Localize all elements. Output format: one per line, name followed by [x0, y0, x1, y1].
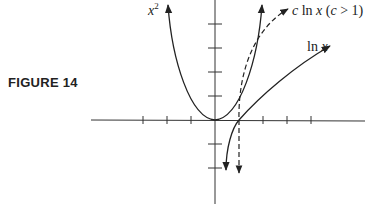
x-axis — [91, 120, 365, 121]
function-graph: x2 c ln x (c > 1) ln x — [0, 0, 370, 213]
curve-c-ln-x — [239, 9, 288, 173]
label-x-squared: x2 — [147, 1, 159, 18]
label-c-ln-x: c ln x (c > 1) — [292, 3, 364, 19]
curve-ln-x — [226, 46, 330, 170]
label-ln-x: ln x — [307, 39, 328, 54]
